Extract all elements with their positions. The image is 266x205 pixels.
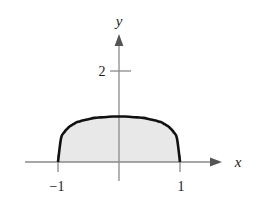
- figure-container: y x 2 −1 1: [0, 0, 266, 205]
- x-tick-label-1: 1: [178, 179, 185, 194]
- x-tick-label-minus-1: −1: [50, 179, 65, 194]
- x-axis-label: x: [234, 154, 242, 170]
- x-axis-arrow-icon: [210, 158, 222, 167]
- y-axis-arrow-icon: [115, 34, 124, 46]
- y-axis-label: y: [114, 13, 123, 29]
- y-tick-label-2: 2: [99, 64, 106, 79]
- plot-svg: y x 2 −1 1: [0, 0, 266, 205]
